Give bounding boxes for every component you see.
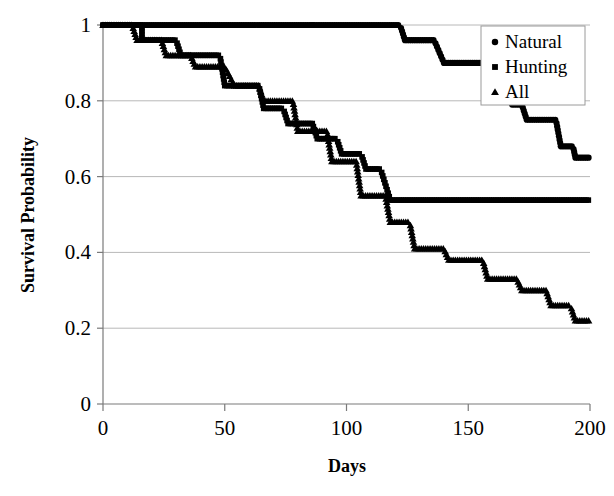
x-tick-label: 200 xyxy=(574,416,606,440)
y-tick-label: 0.4 xyxy=(65,240,92,264)
x-tick-label: 150 xyxy=(453,416,485,440)
chart-legend: NaturalHuntingAll xyxy=(481,26,585,105)
y-axis-title: Survival Probability xyxy=(18,137,38,293)
legend-square-marker xyxy=(492,64,498,70)
y-tick-label: 1 xyxy=(81,13,92,37)
x-tick-label: 50 xyxy=(214,416,235,440)
y-tick-label: 0.8 xyxy=(65,89,91,113)
y-tick-label: 0.2 xyxy=(65,316,91,340)
legend-label-hunting: Hunting xyxy=(505,56,568,77)
survival-probability-chart: 00.20.40.60.81 050100150200 Survival Pro… xyxy=(0,0,614,496)
x-axis-title: Days xyxy=(328,456,366,476)
y-tick-label: 0.6 xyxy=(65,165,91,189)
legend-circle-marker xyxy=(492,39,498,45)
y-tick-label: 0 xyxy=(81,392,92,416)
legend-label-natural: Natural xyxy=(505,31,562,52)
chart-canvas: 00.20.40.60.81 050100150200 Survival Pro… xyxy=(0,0,614,496)
x-tick-label: 0 xyxy=(98,416,109,440)
x-tick-label: 100 xyxy=(331,416,363,440)
legend-label-all: All xyxy=(505,81,529,102)
